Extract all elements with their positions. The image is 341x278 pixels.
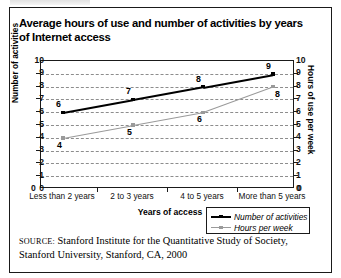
data-point-label: 8 [275, 90, 280, 99]
data-point-label: 4 [57, 141, 62, 150]
y-axis-right-tick: 8 [296, 81, 318, 89]
y-axis-left-tickmark [36, 137, 40, 138]
plot-area: 67894568 [40, 60, 294, 188]
source-label: SOURCE: [19, 237, 55, 246]
y-axis-left-tick: 10 [22, 56, 44, 64]
data-point-marker [61, 111, 64, 114]
y-axis-left-tickmark [36, 111, 40, 112]
data-point-marker [131, 98, 134, 101]
y-axis-left-tick: 3 [22, 145, 44, 153]
y-axis-left-tickmark [36, 124, 40, 125]
data-point-label: 9 [266, 62, 271, 71]
gridline [41, 138, 293, 139]
y-axis-left-title: Number of activities [10, 23, 20, 103]
cropped-label-artifact [10, 0, 90, 5]
chart-legend: Number of activities Hours per week [206, 207, 310, 234]
y-axis-left-tick: 9 [22, 68, 44, 76]
y-axis-left-tickmark [36, 86, 40, 87]
legend-item-hours: Hours per week [211, 222, 305, 233]
gridline [41, 74, 293, 75]
data-point-label: 6 [197, 115, 202, 124]
y-axis-left-tickmark [36, 98, 40, 99]
series-line-segment [63, 125, 133, 139]
y-axis-left-tick: 8 [22, 81, 44, 89]
data-point-label: 8 [196, 75, 201, 84]
y-axis-left-tick: 6 [22, 107, 44, 115]
data-point-label: 7 [126, 87, 131, 96]
y-axis-right-tickmark [294, 162, 298, 163]
legend-label-activities: Number of activities [234, 212, 308, 222]
y-axis-left-tickmark [36, 150, 40, 151]
figure-container: Average hours of use and number of activ… [0, 0, 341, 278]
x-axis-tick-label: More than 5 years [227, 191, 317, 201]
x-axis-zero-right: 0 [297, 183, 302, 193]
y-axis-right-tickmark [294, 111, 298, 112]
legend-item-activities: Number of activities [211, 211, 305, 222]
legend-label-hours: Hours per week [234, 223, 293, 233]
y-axis-right-tickmark [294, 175, 298, 176]
y-axis-left-tickmark [36, 175, 40, 176]
y-axis-right-tickmark [294, 150, 298, 151]
data-point-marker [201, 85, 204, 88]
y-axis-right-tick: 3 [296, 145, 318, 153]
y-axis-left-tick: 2 [22, 158, 44, 166]
y-axis-left-tickmark [36, 73, 40, 74]
data-point-label: 6 [56, 100, 61, 109]
y-axis-right-tickmark [294, 86, 298, 87]
legend-swatch-hours-icon [211, 223, 231, 233]
y-axis-right-tick: 7 [296, 94, 318, 102]
y-axis-right-tick: 10 [296, 56, 318, 64]
legend-swatch-activities-icon [211, 212, 231, 222]
y-axis-right-tick: 6 [296, 107, 318, 115]
gridline [41, 87, 293, 88]
y-axis-right-tickmark [294, 98, 298, 99]
y-axis-right-tickmark [294, 137, 298, 138]
source-note: SOURCE: Stanford Institute for the Quant… [19, 234, 319, 261]
y-axis-right-tick: 2 [296, 158, 318, 166]
y-axis-left-tick: 4 [22, 132, 44, 140]
data-point-label: 5 [127, 128, 132, 137]
gridline [41, 112, 293, 113]
gridline [41, 176, 293, 177]
y-axis-right-tick: 5 [296, 120, 318, 128]
y-axis-right-tick: 4 [296, 132, 318, 140]
y-axis-left-tick: 1 [22, 171, 44, 179]
data-point-marker [271, 85, 274, 88]
y-axis-right-tick: 1 [296, 171, 318, 179]
plot-wrapper: Number of activities Hours of use per we… [16, 55, 324, 195]
y-axis-right-tickmark [294, 73, 298, 74]
data-point-marker [61, 136, 64, 139]
data-point-marker [271, 72, 274, 75]
series-line-segment [133, 112, 203, 126]
gridline [41, 125, 293, 126]
y-axis-right-tick: 9 [296, 68, 318, 76]
gridline [41, 151, 293, 152]
gridline [41, 163, 293, 164]
gridline [41, 99, 293, 100]
y-axis-left-tick: 7 [22, 94, 44, 102]
y-axis-left-tickmark [36, 162, 40, 163]
chart-title: Average hours of use and number of activ… [19, 17, 315, 44]
source-text: Stanford Institute for the Quantitative … [19, 235, 288, 260]
y-axis-left-tick: 5 [22, 120, 44, 128]
x-axis-zero-left: 0 [31, 183, 36, 193]
y-axis-right-tickmark [294, 124, 298, 125]
